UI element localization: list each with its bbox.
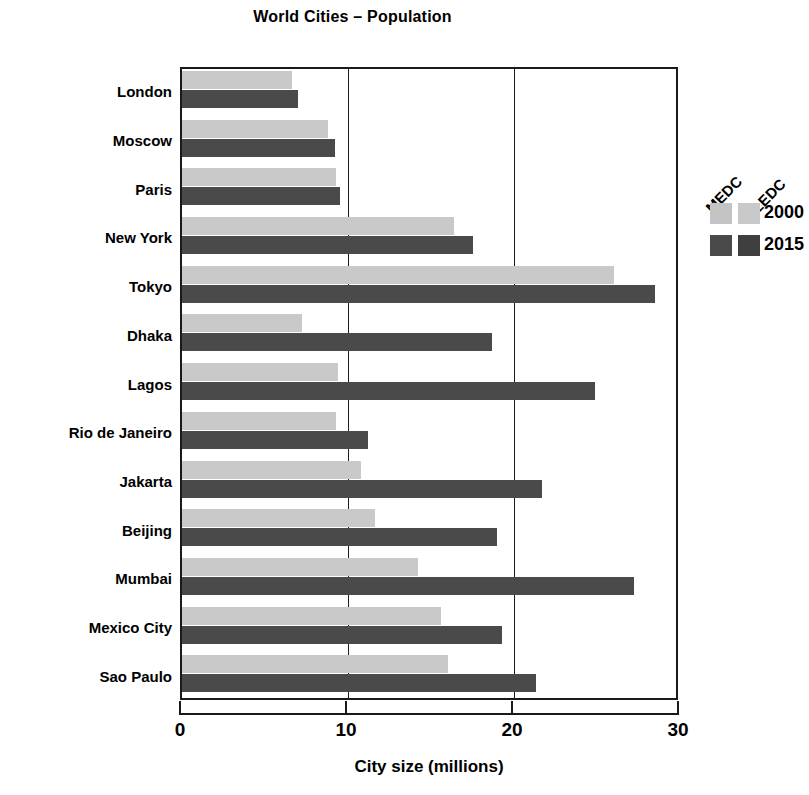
category-label: Mexico City bbox=[0, 620, 172, 635]
x-tick bbox=[511, 701, 513, 715]
bar-group bbox=[182, 69, 676, 118]
category-label: Paris bbox=[0, 182, 172, 197]
bar-2000 bbox=[182, 314, 302, 332]
bar-2000 bbox=[182, 461, 361, 479]
x-tick-label: 20 bbox=[501, 719, 522, 741]
x-tick bbox=[179, 701, 181, 715]
bar-2000 bbox=[182, 266, 614, 284]
legend-year-2015: 2015 bbox=[764, 234, 804, 255]
category-label: Mumbai bbox=[0, 571, 172, 586]
bar-2015 bbox=[182, 382, 595, 400]
category-axis-labels: LondonMoscowParisNew YorkTokyoDhakaLagos… bbox=[0, 67, 172, 700]
bar-2000 bbox=[182, 412, 336, 430]
bar-2000 bbox=[182, 71, 292, 89]
bar-group bbox=[182, 410, 676, 459]
bar-group bbox=[182, 459, 676, 508]
category-label: Moscow bbox=[0, 133, 172, 148]
x-tick bbox=[677, 701, 679, 715]
bar-2000 bbox=[182, 217, 454, 235]
bar-2015 bbox=[182, 333, 492, 351]
chart-title: World Cities – Population bbox=[0, 8, 705, 26]
bar-2000 bbox=[182, 168, 336, 186]
legend: MEDC LEDC 2000 2015 bbox=[702, 131, 809, 251]
x-axis-line bbox=[180, 713, 678, 715]
bar-group bbox=[182, 264, 676, 313]
category-label: Beijing bbox=[0, 523, 172, 538]
legend-year-2000: 2000 bbox=[764, 202, 804, 223]
bar-2015 bbox=[182, 674, 536, 692]
bar-2015 bbox=[182, 626, 502, 644]
plot-area: MEDC LEDC 2000 2015 bbox=[180, 67, 678, 700]
bar-2015 bbox=[182, 480, 542, 498]
legend-swatch-medc-2000 bbox=[710, 203, 732, 224]
bar-2015 bbox=[182, 90, 298, 108]
bar-2000 bbox=[182, 120, 328, 138]
category-label: Rio de Janeiro bbox=[0, 425, 172, 440]
x-axis-title: City size (millions) bbox=[180, 757, 678, 777]
bar-group bbox=[182, 312, 676, 361]
category-label: Jakarta bbox=[0, 474, 172, 489]
bar-2000 bbox=[182, 607, 441, 625]
bar-rows bbox=[182, 69, 676, 698]
bar-group bbox=[182, 215, 676, 264]
category-label: Lagos bbox=[0, 377, 172, 392]
bar-2000 bbox=[182, 655, 448, 673]
bar-group bbox=[182, 118, 676, 167]
category-label: Tokyo bbox=[0, 279, 172, 294]
x-tick-label: 0 bbox=[175, 719, 186, 741]
bar-2015 bbox=[182, 139, 335, 157]
bar-2015 bbox=[182, 577, 634, 595]
bar-2000 bbox=[182, 509, 375, 527]
legend-swatch-medc-2015 bbox=[710, 235, 732, 256]
bar-group bbox=[182, 605, 676, 654]
x-tick bbox=[345, 701, 347, 715]
bar-group bbox=[182, 653, 676, 702]
x-tick-label: 30 bbox=[667, 719, 688, 741]
bar-group bbox=[182, 166, 676, 215]
bar-2015 bbox=[182, 431, 368, 449]
x-tick-label: 10 bbox=[335, 719, 356, 741]
category-label: London bbox=[0, 84, 172, 99]
category-label: New York bbox=[0, 230, 172, 245]
category-label: Sao Paulo bbox=[0, 669, 172, 684]
bar-2000 bbox=[182, 363, 338, 381]
legend-swatch-ledc-2000 bbox=[738, 203, 760, 224]
legend-swatch-ledc-2015 bbox=[738, 235, 760, 256]
category-label: Dhaka bbox=[0, 328, 172, 343]
bar-2015 bbox=[182, 236, 473, 254]
bar-group bbox=[182, 361, 676, 410]
bar-2015 bbox=[182, 528, 497, 546]
bar-group bbox=[182, 507, 676, 556]
bar-2015 bbox=[182, 187, 340, 205]
bar-group bbox=[182, 556, 676, 605]
bar-2015 bbox=[182, 285, 655, 303]
bar-2000 bbox=[182, 558, 418, 576]
